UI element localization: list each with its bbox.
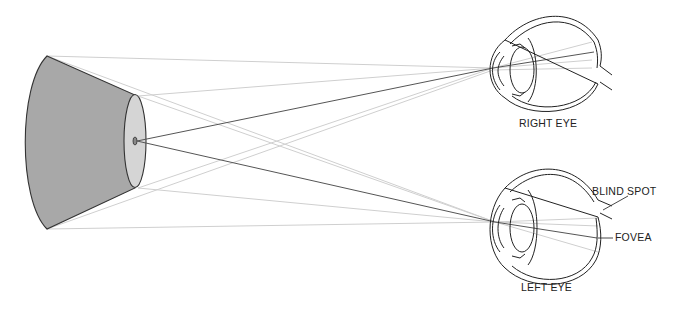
left-eye-label: LEFT EYE bbox=[521, 281, 572, 293]
cone-object bbox=[25, 56, 146, 229]
focus-point bbox=[133, 137, 137, 145]
diagram-stage: RIGHT EYE LEFT EYE BLIND SPOT FOVEA bbox=[0, 0, 681, 325]
blind-spot-leader bbox=[603, 196, 628, 210]
right-eye-label: RIGHT EYE bbox=[519, 117, 577, 129]
blind-spot-label: BLIND SPOT bbox=[592, 185, 656, 197]
fovea-label: FOVEA bbox=[615, 231, 652, 243]
binocular-vision-diagram bbox=[0, 0, 681, 325]
